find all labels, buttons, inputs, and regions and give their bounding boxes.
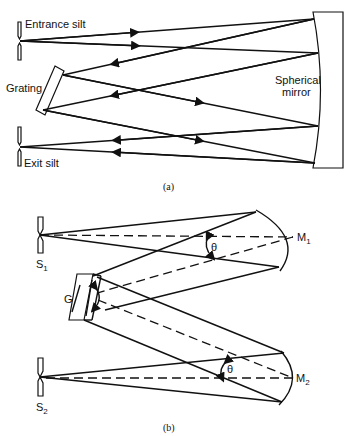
rays-a: [20, 19, 318, 163]
m2-label: M2: [296, 372, 310, 387]
grating-label: Grating: [6, 82, 42, 94]
figure-a: Entrance silt Exit silt Grating Spherica…: [6, 12, 343, 193]
figure-b: S1 S2 G M1 M2: [36, 210, 311, 434]
monochromator-diagram: Entrance silt Exit silt Grating Spherica…: [0, 0, 350, 436]
caption-a: (a): [163, 181, 174, 193]
entrance-slit-label: Entrance silt: [25, 18, 86, 30]
caption-b: (b): [163, 422, 175, 434]
spherical-mirror: [313, 12, 343, 168]
theta-2: θ: [227, 363, 233, 375]
exit-slit-label: Exit silt: [24, 157, 59, 169]
mirror-label-line1: Spherical: [275, 74, 321, 86]
mirror-m1: [256, 210, 288, 271]
mirror-label-line2: mirror: [282, 86, 311, 98]
grating-g-label: G: [64, 293, 73, 305]
grating-g: [69, 274, 101, 320]
s2-label: S2: [36, 401, 48, 416]
theta-1: θ: [211, 241, 217, 253]
m1-label: M1: [297, 231, 311, 246]
s1-label: S1: [36, 258, 48, 273]
